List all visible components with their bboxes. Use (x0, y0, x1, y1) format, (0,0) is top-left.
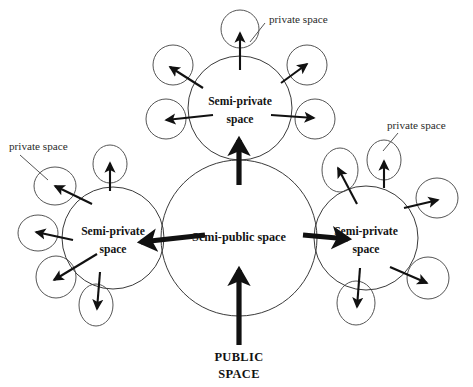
semi-private-left-label-line2: space (99, 243, 126, 256)
flow-arrow (338, 168, 357, 204)
public-space-label: PUBLIC SPACE (214, 350, 263, 381)
flow-arrow (97, 272, 100, 309)
private-space-label: private space (269, 13, 328, 25)
diagram-canvas: Semi-public space Semi-private space Sem… (0, 0, 473, 387)
private-space-circle (36, 256, 76, 298)
flow-arrow (271, 115, 314, 118)
zone-circle-semi-private-left (62, 187, 164, 289)
leader-line (383, 133, 398, 151)
semi-private-right-label-line2: space (352, 243, 379, 256)
public-space-label-line1: PUBLIC (214, 350, 263, 364)
flow-arrow (404, 200, 438, 208)
semi-public-space-label: Semi-public space (192, 230, 286, 244)
semi-private-left-label-line1: Semi-private (81, 225, 145, 238)
leader-line (250, 23, 265, 42)
private-space-label: private space (387, 119, 446, 131)
semi-private-top-label-line1: Semi-private (208, 95, 272, 108)
private-space-circle (337, 281, 375, 325)
space-hierarchy-diagram: Semi-public space Semi-private space Sem… (0, 0, 473, 387)
private-space-circle (79, 284, 113, 326)
public-space-label-line2: SPACE (218, 367, 260, 381)
private-space-labels: private spaceprivate spaceprivate space (9, 13, 446, 152)
leader-line (20, 155, 48, 180)
flow-arrow (36, 232, 73, 240)
semi-private-right-label-line1: Semi-private (334, 225, 398, 238)
private-space-circle (416, 178, 458, 218)
private-space-circle (295, 99, 335, 139)
private-space-label: private space (9, 140, 68, 152)
flow-arrow (357, 268, 360, 307)
semi-private-top-label-line2: space (226, 113, 253, 126)
